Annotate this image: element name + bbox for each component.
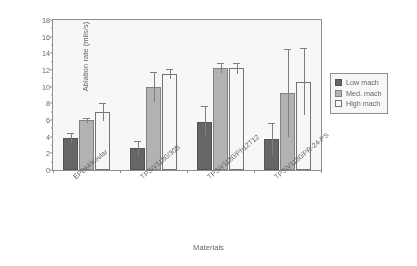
y-axis-tick-label: 2: [46, 149, 50, 158]
x-axis-tick-mark: [187, 170, 188, 173]
legend-item: Med. mach: [335, 89, 382, 98]
error-bar: [205, 106, 206, 138]
error-bar-cap: [233, 63, 240, 64]
error-bar-cap: [268, 123, 275, 124]
y-axis-tick-label: 14: [42, 49, 50, 58]
error-bar-cap: [217, 63, 224, 64]
y-axis-tick-label: 10: [42, 82, 50, 91]
error-bar: [221, 63, 222, 73]
legend-label-low-mach: Low mach: [346, 78, 379, 87]
error-bar-cap: [134, 141, 141, 142]
y-axis-tick-label: 12: [42, 66, 50, 75]
error-bar: [71, 133, 72, 143]
y-axis-tick-label: 0: [46, 166, 50, 175]
error-bar-cap: [166, 69, 173, 70]
legend-item: Low mach: [335, 78, 382, 87]
error-bar: [272, 123, 273, 155]
legend-swatch-low-mach: [335, 79, 342, 86]
error-bar: [170, 69, 171, 79]
error-bar: [138, 141, 139, 156]
x-axis-tick-mark: [53, 170, 54, 173]
legend-label-high-mach: High mach: [346, 99, 380, 108]
x-axis-tick-mark: [321, 170, 322, 173]
legend-label-med-mach: Med. mach: [346, 89, 382, 98]
y-axis-tick-label: 16: [42, 32, 50, 41]
plot-area: Ablation rate (mils/s) 024681014121618: [52, 19, 322, 171]
error-bar-cap: [284, 49, 291, 50]
error-bar-cap: [83, 118, 90, 119]
error-bar-cap: [99, 103, 106, 104]
legend-swatch-high-mach: [335, 100, 342, 107]
error-bar: [154, 72, 155, 102]
x-axis-title: Materials: [0, 243, 417, 252]
error-bar: [103, 103, 104, 121]
x-axis-tick-mark: [254, 170, 255, 173]
y-axis-tick-label: 4: [46, 132, 50, 141]
error-bar-cap: [300, 48, 307, 49]
error-bar: [304, 48, 305, 115]
error-bar-cap: [67, 133, 74, 134]
y-axis-tick-label: 18: [42, 16, 50, 25]
chart-legend: Low mach Med. mach High mach: [330, 73, 388, 114]
y-axis-tick-label: 8: [46, 99, 50, 108]
chart-figure: Ablation rate (mils/s) 024681014121618 M…: [0, 0, 417, 266]
error-bar-cap: [201, 106, 208, 107]
bar-group: [53, 20, 120, 170]
legend-swatch-med-mach: [335, 90, 342, 97]
error-bar: [288, 49, 289, 137]
bar: [213, 68, 228, 171]
x-axis-tick-mark: [120, 170, 121, 173]
legend-item: High mach: [335, 99, 382, 108]
error-bar-cap: [150, 72, 157, 73]
y-axis-tick-label: 6: [46, 116, 50, 125]
error-bar: [237, 63, 238, 75]
